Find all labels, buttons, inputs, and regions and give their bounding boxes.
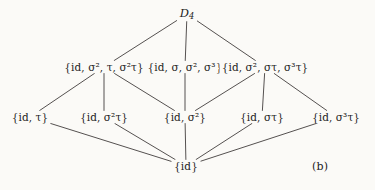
node-m2-label: {id, σ, σ², σ³} — [148, 61, 223, 73]
lattice-edge — [40, 74, 95, 111]
lattice-edge — [185, 22, 186, 61]
lattice-edge — [274, 74, 326, 111]
node-l5-label: {id, σ³τ} — [312, 111, 360, 123]
lattice-edge — [262, 74, 264, 111]
node-d4-subscript: 4 — [189, 11, 194, 21]
node-l1-label: {id, τ} — [12, 111, 49, 123]
node-m1-label: {id, σ², τ, σ²τ} — [64, 61, 143, 73]
node-triv-label: {id} — [174, 160, 198, 172]
subgroup-lattice-figure: D4 {id, σ², τ, σ²τ} {id, σ, σ², σ³} {id,… — [0, 0, 375, 190]
lattice-edge — [185, 124, 186, 160]
lattice-edge — [114, 21, 176, 61]
lattice-edge — [195, 74, 254, 111]
lattice-node-id-tau[interactable]: {id, τ} — [10, 111, 51, 123]
lattice-node-id-sigma3tau[interactable]: {id, σ³τ} — [310, 111, 362, 123]
node-l3-label: {id, σ²} — [164, 111, 206, 123]
lattice-node-klein-sigmatau[interactable]: {id, σ², στ, σ³τ} — [220, 61, 311, 73]
lattice-edge — [115, 124, 175, 160]
lattice-node-cyclic-sigma[interactable]: {id, σ, σ², σ³} — [146, 61, 225, 73]
lattice-node-trivial[interactable]: {id} — [172, 160, 200, 172]
lattice-edge — [196, 124, 252, 160]
lattice-edge — [197, 21, 255, 60]
node-l2-label: {id, σ²τ} — [80, 111, 128, 123]
lattice-edge — [51, 124, 171, 162]
lattice-edge — [115, 74, 175, 111]
node-d4-base: D — [180, 6, 189, 20]
lattice-node-id-sigmatau[interactable]: {id, στ} — [238, 111, 286, 123]
lattice-node-id-sigma2tau[interactable]: {id, σ²τ} — [78, 111, 130, 123]
lattice-node-klein-tau[interactable]: {id, σ², τ, σ²τ} — [62, 61, 145, 73]
node-m3-label: {id, σ², στ, σ³τ} — [222, 61, 309, 73]
lattice-edge — [201, 124, 316, 162]
node-l4-label: {id, στ} — [240, 111, 284, 123]
figure-caption: (b) — [312, 160, 328, 173]
lattice-node-d4[interactable]: D4 — [178, 7, 197, 21]
lattice-node-id-sigma2[interactable]: {id, σ²} — [162, 111, 208, 123]
